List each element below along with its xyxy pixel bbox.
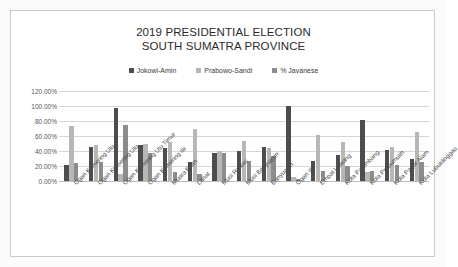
legend-item[interactable]: Prabowo-Sandi [196,67,252,74]
bar[interactable] [212,153,216,181]
bar-group [207,91,232,181]
legend-label: Jokowi-Amin [137,67,177,74]
chart-legend: Jokowi-AminPrabowo-Sandi% Javanese [11,67,436,74]
y-axis-tick-label: 20.00% [35,163,57,170]
bar[interactable] [69,126,73,181]
bar[interactable] [217,151,221,181]
chart-title-line-1: 2019 PRESIDENTIAL ELECTION [11,25,436,39]
legend-label: % Javanese [280,67,318,74]
y-axis-tick-label: 120.00% [31,88,57,95]
chart-container: 2019 PRESIDENTIAL ELECTION SOUTH SUMATRA… [10,10,435,257]
chart-title: 2019 PRESIDENTIAL ELECTION SOUTH SUMATRA… [11,25,436,53]
legend-item[interactable]: Jokowi-Amin [129,67,177,74]
legend-swatch-icon [129,68,134,73]
legend-item[interactable]: % Javanese [272,67,318,74]
y-axis: 120.00%100.00%80.00%60.00%40.00%20.00%0.… [17,91,57,181]
y-axis-tick-label: 60.00% [35,133,57,140]
y-axis-tick-label: 40.00% [35,148,57,155]
bar-group [59,91,84,181]
legend-label: Prabowo-Sandi [204,67,252,74]
y-axis-tick-label: 80.00% [35,118,57,125]
bar[interactable] [193,129,197,182]
y-axis-tick-label: 100.00% [31,103,57,110]
y-axis-tick-label: 0.00% [39,178,57,185]
bar[interactable] [64,165,68,182]
legend-swatch-icon [196,68,201,73]
x-axis-labels: Ogan Komering UluOgan Komering UluOgan K… [59,181,429,259]
bar[interactable] [316,135,320,182]
plot-wrapper: 120.00%100.00%80.00%60.00%40.00%20.00%0.… [11,91,436,181]
chart-title-line-2: SOUTH SUMATRA PROVINCE [11,39,436,53]
legend-swatch-icon [272,68,277,73]
